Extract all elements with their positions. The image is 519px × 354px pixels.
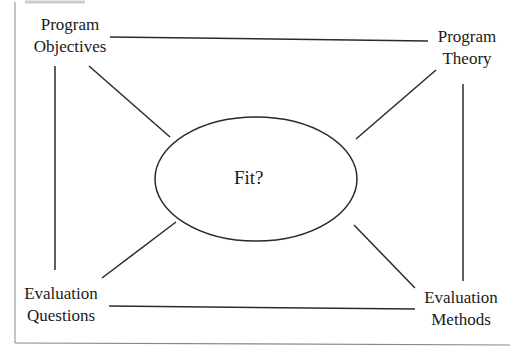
node-line2: Methods bbox=[416, 309, 506, 331]
edge-methods-fit bbox=[354, 225, 415, 288]
edge-theory-fit bbox=[356, 70, 436, 139]
edge-questions-methods bbox=[109, 306, 415, 309]
edge-objectives-fit bbox=[89, 66, 170, 137]
fit-label: Fit? bbox=[234, 167, 264, 189]
node-line2: Objectives bbox=[25, 36, 115, 58]
node-program-objectives: Program Objectives bbox=[25, 14, 115, 58]
frame-bottom bbox=[15, 343, 510, 345]
node-line2: Questions bbox=[16, 305, 106, 327]
node-evaluation-questions: Evaluation Questions bbox=[16, 283, 106, 327]
node-line1: Evaluation bbox=[16, 283, 106, 305]
node-line1: Program bbox=[422, 26, 512, 48]
node-line1: Evaluation bbox=[416, 287, 506, 309]
node-evaluation-methods: Evaluation Methods bbox=[416, 287, 506, 331]
edge-objectives-theory bbox=[110, 37, 428, 41]
node-line2: Theory bbox=[422, 48, 512, 70]
edge-questions-fit bbox=[102, 222, 176, 278]
node-program-theory: Program Theory bbox=[422, 26, 512, 70]
node-line1: Program bbox=[25, 14, 115, 36]
